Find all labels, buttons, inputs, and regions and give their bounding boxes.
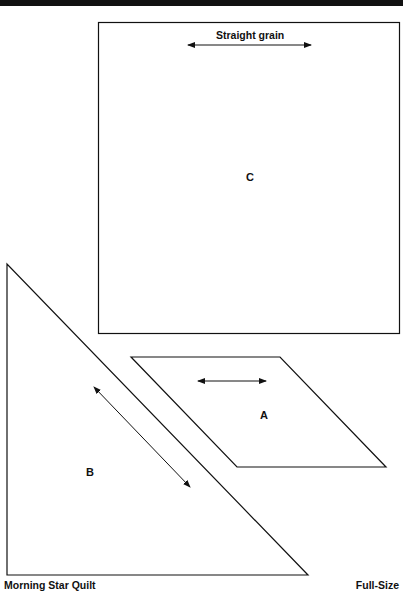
piece-c-label: C — [246, 172, 254, 183]
pattern-title: Morning Star Quilt — [4, 580, 96, 591]
straight-grain-label: Straight grain — [216, 30, 284, 41]
piece-a-outline — [131, 357, 386, 467]
scale-label: Full-Size — [356, 580, 399, 591]
piece-a-label: A — [260, 410, 268, 421]
piece-b-label: B — [86, 467, 94, 478]
pattern-diagram — [0, 0, 403, 591]
grain-arrow-b — [94, 387, 190, 487]
